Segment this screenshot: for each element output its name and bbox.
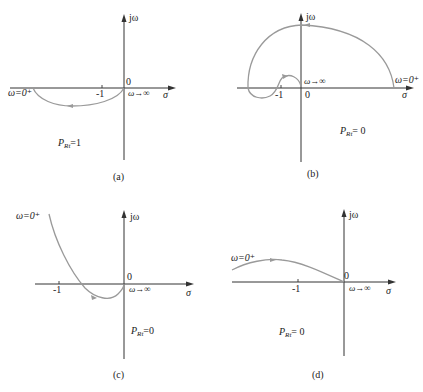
end-label: ω→∞	[304, 77, 326, 86]
x-axis-label: σ	[386, 286, 391, 296]
caption: (d)	[312, 369, 324, 380]
p-label: PRt=0	[131, 326, 154, 338]
x-axis-label: σ	[186, 288, 191, 298]
tick-label-minus-one: -1	[275, 90, 283, 100]
caption: (a)	[113, 171, 124, 182]
p-label: PRt= 0	[279, 327, 304, 339]
panel-d: jω σ 0 -1 ω=0⁺ ω→∞ PRt= 0 (d)	[212, 196, 423, 392]
y-axis-label: jω	[306, 12, 315, 22]
nyquist-plot-d	[212, 196, 423, 392]
tick-label-minus-one: -1	[292, 284, 300, 294]
panel-c: jω σ 0 -1 ω=0⁺ ω→∞ PRt=0 (c)	[0, 196, 211, 392]
start-label: ω=0⁺	[231, 253, 255, 263]
end-label: ω→∞	[129, 285, 151, 294]
y-axis-label: jω	[129, 13, 138, 23]
start-label: ω=0⁺	[395, 75, 419, 85]
panel-a: jω σ 0 -1 ω=0⁺ ω→∞ PRt=1 (a)	[0, 0, 211, 196]
caption: (c)	[113, 369, 124, 380]
x-axis-label: σ	[402, 90, 407, 100]
y-axis-label: jω	[349, 210, 358, 220]
end-label: ω→∞	[349, 284, 371, 293]
end-label: ω→∞	[128, 89, 150, 98]
x-axis-label: σ	[163, 90, 168, 100]
origin-label: 0	[344, 271, 349, 281]
start-label: ω=0⁺	[16, 211, 40, 221]
p-label: PRt= 0	[340, 126, 365, 138]
panel-b: jω σ 0 -1 ω=0⁺ ω→∞ PRt= 0 (b)	[212, 0, 423, 196]
tick-label-minus-one: -1	[53, 285, 61, 295]
nyquist-plot-b	[212, 0, 423, 196]
start-label: ω=0⁺	[8, 88, 32, 98]
caption: (b)	[307, 168, 319, 179]
tick-label-minus-one: -1	[96, 89, 104, 99]
y-axis-label: jω	[130, 212, 139, 222]
origin-label: 0	[305, 90, 310, 100]
p-label: PRt=1	[58, 138, 81, 150]
nyquist-plot-a	[0, 0, 211, 196]
nyquist-plot-c	[0, 196, 211, 392]
origin-label: 0	[126, 77, 131, 87]
origin-label: 0	[127, 272, 132, 282]
